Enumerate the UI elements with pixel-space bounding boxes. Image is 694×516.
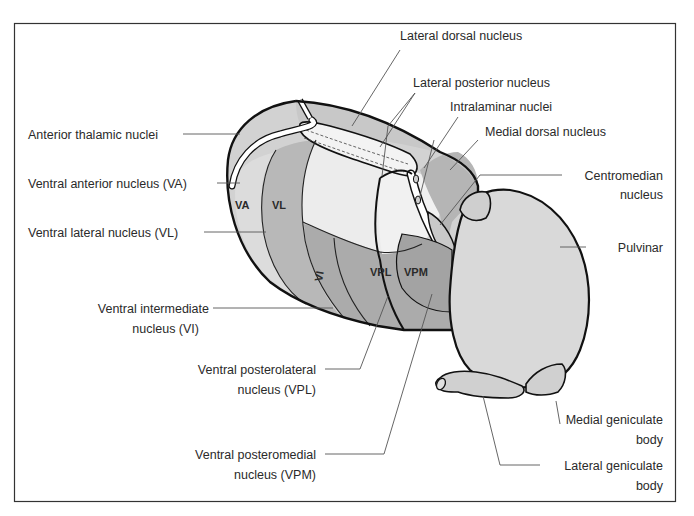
label-centromedian-line1: Centromedian	[584, 169, 663, 183]
vi-abbr: VI	[312, 270, 326, 282]
intralaminar-nucleus-1	[413, 175, 418, 183]
label-lateral-geniculate-line1: Lateral geniculate	[564, 459, 663, 473]
label-anterior-thalamic: Anterior thalamic nuclei	[28, 128, 158, 142]
va-abbr: VA	[235, 199, 250, 211]
label-vpm-line1: Ventral posteromedial	[195, 448, 316, 462]
label-pulvinar: Pulvinar	[618, 241, 663, 255]
label-ventral-intermediate-line2: nucleus (VI)	[132, 322, 199, 336]
thalamus-diagram: VA VL VI VPL VPM Lateral dorsal nucleus …	[0, 0, 694, 516]
vl-abbr: VL	[272, 199, 286, 211]
diagram-canvas: VA VL VI VPL VPM Lateral dorsal nucleus …	[0, 0, 694, 516]
vpm-abbr: VPM	[404, 266, 428, 278]
label-ventral-intermediate-line1: Ventral intermediate	[98, 302, 209, 316]
label-centromedian-line2: nucleus	[620, 188, 663, 202]
label-medial-dorsal: Medial dorsal nucleus	[485, 125, 606, 139]
label-lateral-posterior: Lateral posterior nucleus	[413, 76, 550, 90]
label-lateral-geniculate-line2: body	[636, 479, 664, 493]
vpl-abbr: VPL	[370, 266, 392, 278]
label-medial-geniculate-line1: Medial geniculate	[566, 413, 663, 427]
label-ventral-lateral: Ventral lateral nucleus (VL)	[28, 226, 178, 240]
label-medial-geniculate-line2: body	[636, 433, 664, 447]
label-vpl-line1: Ventral posterolateral	[198, 363, 316, 377]
label-intralaminar: Intralaminar nuclei	[450, 100, 552, 114]
label-vpl-line2: nucleus (VPL)	[237, 383, 316, 397]
label-lateral-dorsal: Lateral dorsal nucleus	[400, 29, 522, 43]
label-vpm-line2: nucleus (VPM)	[234, 468, 316, 482]
intralaminar-nucleus-2	[415, 196, 420, 204]
label-ventral-anterior: Ventral anterior nucleus (VA)	[28, 177, 187, 191]
